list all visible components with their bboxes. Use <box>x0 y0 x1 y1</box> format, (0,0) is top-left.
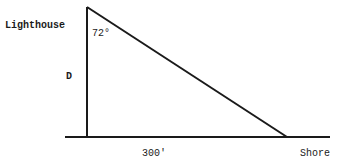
height-label: D <box>66 71 72 82</box>
triangle-diagram: Lighthouse 72° D 300' Shore <box>0 0 344 167</box>
base-length-label: 300' <box>142 148 166 159</box>
hypotenuse-sightline <box>87 7 287 137</box>
lighthouse-label: Lighthouse <box>5 20 65 31</box>
angle-label: 72° <box>92 28 110 39</box>
shore-label: Shore <box>300 148 330 159</box>
